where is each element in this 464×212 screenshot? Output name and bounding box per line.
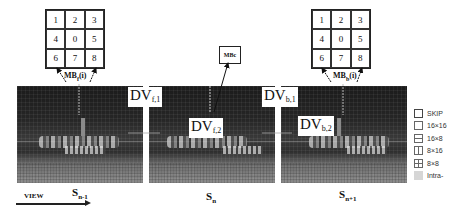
dv-sub: f,2 <box>213 126 222 135</box>
dv-sub: f,1 <box>152 95 161 104</box>
legend-item-8x8: 8×8 <box>414 157 464 170</box>
legend-label: SKIP <box>427 110 443 117</box>
frame-label-s-n-minus-1: Sn-1 <box>72 186 88 201</box>
partition-16x8-icon <box>414 134 423 143</box>
legend-label: 16×8 <box>427 135 443 142</box>
dv-main: DV <box>130 87 152 103</box>
frame-label-s-n-plus-1: Sn+1 <box>339 188 357 203</box>
partition-16x16-icon <box>414 121 423 130</box>
partition-legend: SKIP 16×16 16×8 8×16 8×8 Intra- <box>414 107 464 182</box>
legend-item-skip: SKIP <box>414 107 464 120</box>
partition-8x16-icon <box>414 146 423 155</box>
arrow-overlay <box>0 0 464 212</box>
intra-swatch-icon <box>414 171 423 180</box>
dv-f1-label: DVf,1 <box>128 87 162 107</box>
dv-sub: b,2 <box>322 124 332 133</box>
frame-label-sub: n+1 <box>345 195 356 203</box>
dv-f2-label: DVf,2 <box>189 118 223 138</box>
legend-label: Intra- <box>427 172 443 179</box>
dv-main: DV <box>191 118 213 134</box>
view-label: VIEW <box>24 192 43 200</box>
skip-swatch-icon <box>414 109 423 118</box>
legend-item-16x8: 16×8 <box>414 132 464 145</box>
legend-label: 16×16 <box>427 122 447 129</box>
frame-label-sub: n <box>212 197 216 205</box>
legend-item-intra: Intra- <box>414 170 464 183</box>
dv-b2-label: DVb,2 <box>298 116 334 136</box>
dv-b1-label: DVb,1 <box>262 87 298 107</box>
frame-label-s-n: Sn <box>206 190 216 205</box>
dv-main: DV <box>264 87 286 103</box>
legend-label: 8×8 <box>427 160 439 167</box>
dv-main: DV <box>300 116 322 132</box>
legend-label: 8×16 <box>427 147 443 154</box>
dv-sub: b,1 <box>286 95 296 104</box>
legend-item-8x16: 8×16 <box>414 145 464 158</box>
legend-item-16x16: 16×16 <box>414 120 464 133</box>
view-direction-arrow-icon <box>16 203 86 205</box>
partition-8x8-icon <box>414 159 423 168</box>
